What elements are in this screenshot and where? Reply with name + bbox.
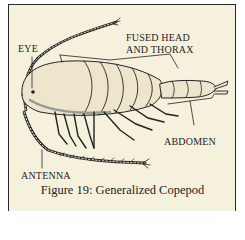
label-antenna: ANTENNA bbox=[21, 170, 71, 181]
label-fused-head-line1: FUSED HEAD bbox=[126, 32, 190, 43]
label-eye: EYE bbox=[18, 43, 38, 54]
abdomen-leader bbox=[190, 101, 194, 125]
figure-caption: Figure 19: Generalized Copepod bbox=[0, 183, 245, 198]
eye-dot bbox=[31, 90, 35, 94]
label-fused-head-line2: AND THORAX bbox=[126, 44, 194, 55]
label-abdomen: ABDOMEN bbox=[164, 136, 216, 147]
